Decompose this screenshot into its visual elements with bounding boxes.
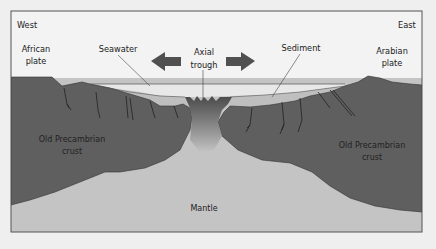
- label-african-plate-2: plate: [26, 56, 47, 66]
- label-crust-right-2: crust: [362, 153, 382, 162]
- label-arabian-plate-2: plate: [382, 58, 403, 68]
- label-east: East: [398, 20, 416, 30]
- label-sediment: Sediment: [281, 43, 321, 53]
- label-axial-trough-2: trough: [191, 60, 218, 70]
- label-seawater: Seawater: [99, 44, 138, 54]
- label-arabian-plate-1: Arabian: [376, 46, 408, 56]
- label-crust-left-2: crust: [62, 147, 82, 156]
- rift-diagram: West East African plate Seawater Axial t…: [0, 0, 436, 249]
- label-mantle: Mantle: [190, 204, 217, 213]
- label-crust-left-1: Old Precambrian: [39, 135, 106, 144]
- label-crust-right-1: Old Precambrian: [339, 141, 406, 150]
- label-axial-trough-1: Axial: [194, 47, 214, 57]
- label-african-plate-1: African: [22, 44, 51, 54]
- label-west: West: [17, 20, 38, 30]
